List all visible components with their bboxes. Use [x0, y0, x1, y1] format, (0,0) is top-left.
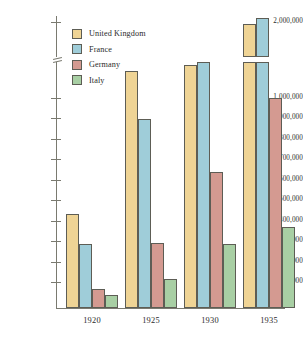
bar-1935-italy — [282, 227, 295, 308]
bar-1920-france — [79, 244, 92, 308]
legend-label: France — [89, 45, 112, 54]
bar-1920-united-kingdom — [66, 214, 79, 308]
bar-1935-united-kingdom-upper — [243, 24, 256, 57]
bar-chart: 100,000 200,000 300,000 400,000 500,000 … — [0, 0, 303, 350]
bar-1930-italy — [223, 244, 236, 308]
y-tick-mark — [51, 118, 61, 119]
y-tick-mark — [51, 22, 61, 23]
y-tick-mark — [51, 200, 61, 201]
y-tick-mark — [51, 282, 61, 283]
bar-1935-france-lower — [256, 62, 269, 308]
bar-1925-united-kingdom — [125, 71, 138, 308]
color-swatch-icon — [72, 60, 82, 70]
legend-item-italy: Italy — [72, 73, 146, 89]
x-tick-label-1920: 1920 — [62, 316, 122, 325]
bar-1925-germany — [151, 243, 164, 308]
legend-item-united-kingdom: United Kingdom — [72, 26, 146, 42]
bar-1935-united-kingdom-lower — [243, 62, 256, 308]
color-swatch-icon — [72, 75, 82, 85]
y-tick-mark — [51, 221, 61, 222]
y-tick-mark — [51, 262, 61, 263]
y-tick-mark — [51, 180, 61, 181]
y-tick-mark — [51, 98, 61, 99]
y-tick-mark — [51, 139, 61, 140]
legend-item-germany: Germany — [72, 57, 146, 73]
chart-legend: United Kingdom France Germany Italy — [72, 26, 146, 88]
bar-1925-france — [138, 119, 151, 308]
color-swatch-icon — [72, 29, 82, 39]
y-tick-mark — [51, 241, 61, 242]
legend-label: Germany — [89, 60, 120, 69]
y-tick-mark — [51, 159, 61, 160]
bar-1920-germany — [92, 289, 105, 308]
color-swatch-icon — [72, 44, 82, 54]
x-tick-label-1925: 1925 — [121, 316, 181, 325]
bar-1925-italy — [164, 279, 177, 308]
legend-label: Italy — [89, 76, 105, 85]
bar-1935-france-upper — [256, 18, 269, 57]
bar-1930-germany — [210, 172, 223, 308]
bar-1935-germany — [269, 98, 282, 308]
bar-1920-italy — [105, 295, 118, 308]
x-tick-label-1935: 1935 — [239, 316, 299, 325]
legend-label: United Kingdom — [89, 29, 146, 38]
bar-1930-united-kingdom — [184, 65, 197, 308]
bar-1930-france — [197, 62, 210, 308]
x-axis-line — [56, 308, 285, 309]
legend-item-france: France — [72, 42, 146, 58]
x-tick-label-1930: 1930 — [180, 316, 240, 325]
